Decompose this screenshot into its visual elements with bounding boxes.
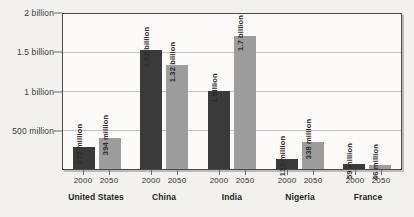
category-label: France bbox=[334, 192, 402, 202]
y-axis-tick bbox=[54, 130, 62, 131]
bar-group: 1.52 billion1.32 billion bbox=[131, 14, 199, 169]
x-axis-tick bbox=[83, 170, 84, 175]
population-bar-chart: 2 billion1.5 billion1 billion500 million… bbox=[0, 0, 414, 217]
year-label: 2000 bbox=[208, 176, 230, 185]
bar-column: 59 million bbox=[343, 14, 365, 169]
year-label: 2050 bbox=[234, 176, 256, 185]
bar-column: 394 million bbox=[99, 14, 121, 169]
y-axis: 2 billion1.5 billion1 billion500 million bbox=[0, 0, 62, 170]
x-axis-group: 20002050France bbox=[334, 170, 402, 217]
bar-pair: 1.52 billion1.32 billion bbox=[131, 14, 199, 169]
bar-2000 bbox=[140, 50, 162, 169]
year-label: 2050 bbox=[166, 176, 188, 185]
x-axis-tick bbox=[151, 170, 152, 175]
bar-pair: 1 billion1.7 billion bbox=[198, 14, 266, 169]
x-axis-group: 20002050China bbox=[130, 170, 198, 217]
x-axis: 20002050United States20002050China200020… bbox=[62, 170, 402, 217]
x-axis-group: 20002050India bbox=[198, 170, 266, 217]
bar-group: 275 million394 million bbox=[63, 14, 131, 169]
y-axis-label: 500 million bbox=[12, 126, 54, 136]
bar-pair: 275 million394 million bbox=[63, 14, 131, 169]
x-axis-group: 20002050United States bbox=[62, 170, 130, 217]
bar-column: 1.52 billion bbox=[140, 14, 162, 169]
year-labels: 20002050 bbox=[198, 176, 266, 185]
year-label: 2050 bbox=[370, 176, 392, 185]
category-label: United States bbox=[62, 192, 130, 202]
year-label: 2000 bbox=[344, 176, 366, 185]
x-axis-ticks bbox=[334, 170, 402, 175]
x-axis-ticks bbox=[130, 170, 198, 175]
y-axis-tick bbox=[54, 52, 62, 53]
bar-column: 275 million bbox=[73, 14, 95, 169]
bar-group: 132 million338 million bbox=[266, 14, 334, 169]
bar-value-label: 275 million bbox=[75, 124, 84, 164]
year-label: 2000 bbox=[276, 176, 298, 185]
category-label: China bbox=[130, 192, 198, 202]
x-axis-tick bbox=[313, 170, 314, 175]
y-axis-tick bbox=[54, 91, 62, 92]
plot-area: 275 million394 million1.52 billion1.32 b… bbox=[62, 13, 402, 170]
y-axis-label: 2 billion bbox=[24, 8, 54, 18]
bar-column: 46 million bbox=[369, 14, 391, 169]
category-label: India bbox=[198, 192, 266, 202]
x-axis-tick bbox=[381, 170, 382, 175]
bar-value-label: 1.52 billion bbox=[142, 26, 151, 66]
x-axis-ticks bbox=[198, 170, 266, 175]
category-label: Nigeria bbox=[266, 192, 334, 202]
bar-group: 1 billion1.7 billion bbox=[198, 14, 266, 169]
x-axis-ticks bbox=[266, 170, 334, 175]
bar-column: 1.7 billion bbox=[234, 14, 256, 169]
x-axis-tick bbox=[177, 170, 178, 175]
bar-value-label: 1 billion bbox=[210, 73, 219, 103]
x-axis-tick bbox=[245, 170, 246, 175]
bar-groups: 275 million394 million1.52 billion1.32 b… bbox=[63, 14, 401, 169]
bar-group: 59 million46 million bbox=[333, 14, 401, 169]
y-axis-tick bbox=[54, 13, 62, 14]
x-axis-tick bbox=[219, 170, 220, 175]
year-labels: 20002050 bbox=[334, 176, 402, 185]
bar-value-label: 338 million bbox=[304, 119, 313, 159]
bar-2050 bbox=[234, 36, 256, 169]
bar-pair: 132 million338 million bbox=[266, 14, 334, 169]
bar-column: 132 million bbox=[276, 14, 298, 169]
x-axis-tick bbox=[109, 170, 110, 175]
bar-column: 1 billion bbox=[208, 14, 230, 169]
year-label: 2000 bbox=[140, 176, 162, 185]
y-axis-label: 1 billion bbox=[24, 87, 54, 97]
x-axis-tick bbox=[287, 170, 288, 175]
bar-column: 1.32 billion bbox=[166, 14, 188, 169]
year-labels: 20002050 bbox=[62, 176, 130, 185]
year-labels: 20002050 bbox=[266, 176, 334, 185]
y-axis-label: 1.5 billion bbox=[17, 47, 54, 57]
bar-value-label: 1.32 billion bbox=[168, 42, 177, 82]
year-label: 2050 bbox=[98, 176, 120, 185]
year-label: 2050 bbox=[302, 176, 324, 185]
x-axis-group: 20002050Nigeria bbox=[266, 170, 334, 217]
bar-column: 338 million bbox=[302, 14, 324, 169]
year-labels: 20002050 bbox=[130, 176, 198, 185]
bar-value-label: 394 million bbox=[101, 115, 110, 155]
bar-pair: 59 million46 million bbox=[333, 14, 401, 169]
bar-value-label: 1.7 billion bbox=[236, 15, 245, 51]
year-label: 2000 bbox=[72, 176, 94, 185]
x-axis-tick bbox=[355, 170, 356, 175]
x-axis-ticks bbox=[62, 170, 130, 175]
